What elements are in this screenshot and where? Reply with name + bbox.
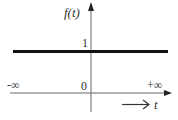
time-label: t bbox=[154, 97, 158, 112]
t-axis-arrowhead-icon bbox=[164, 90, 172, 96]
neg-inf-label: -∞ bbox=[7, 78, 20, 92]
function-label: f(t) bbox=[64, 5, 80, 20]
f-axis-arrowhead-icon bbox=[88, 2, 94, 11]
origin-label: 0 bbox=[81, 79, 87, 93]
pos-inf-label: +∞ bbox=[147, 78, 162, 92]
constant-signal-diagram: f(t) 1 0 -∞ +∞ t bbox=[0, 0, 178, 120]
level-label: 1 bbox=[82, 36, 88, 50]
